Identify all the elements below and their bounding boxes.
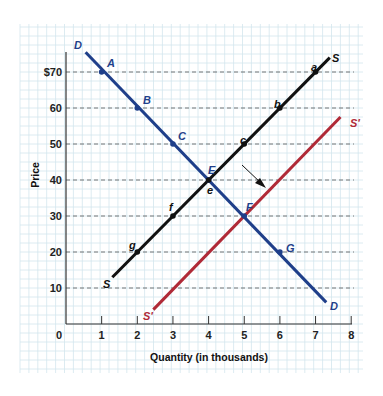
y-tick-label: 60 xyxy=(50,102,62,114)
x-tick-label: 7 xyxy=(312,329,318,341)
point-F xyxy=(241,213,247,219)
point-C xyxy=(170,141,176,147)
point-g-label: g xyxy=(128,239,136,251)
y-tick-label: 10 xyxy=(50,282,62,294)
x-tick-label: 6 xyxy=(277,329,283,341)
y-tick-label: 40 xyxy=(50,174,62,186)
point-F-label: F xyxy=(246,201,253,213)
y-axis-title: Price xyxy=(29,162,41,188)
y-tick-label: 30 xyxy=(50,210,62,222)
point-B xyxy=(135,105,141,111)
supply-label-top: S xyxy=(332,52,340,64)
new-supply-label-bottom: S' xyxy=(143,310,153,322)
supply-demand-chart: 12345678 102030405060$70 0 Price Quantit… xyxy=(0,0,383,396)
point-G-label: G xyxy=(286,242,295,254)
y-tick-label: 20 xyxy=(50,246,62,258)
demand-label-bottom: D xyxy=(330,300,338,312)
origin-label: 0 xyxy=(56,329,62,341)
point-G xyxy=(277,249,283,255)
point-A-label: A xyxy=(106,57,115,69)
point-B-label: B xyxy=(143,94,151,106)
demand-label-top: D xyxy=(74,39,82,51)
point-e xyxy=(206,177,212,183)
y-tick-label: 50 xyxy=(50,138,62,150)
point-e-label: e xyxy=(207,184,213,196)
new-supply-label-top: S' xyxy=(350,117,360,129)
x-tick-label: 5 xyxy=(241,329,247,341)
point-E-label: E xyxy=(208,164,216,176)
y-tick-label: $70 xyxy=(44,66,62,78)
point-f xyxy=(170,213,176,219)
x-tick-label: 3 xyxy=(170,329,176,341)
x-tick-label: 8 xyxy=(348,329,354,341)
point-a-label: a xyxy=(311,61,317,73)
point-b-label: b xyxy=(274,98,281,110)
point-c-label: c xyxy=(240,134,246,146)
x-tick-label: 1 xyxy=(99,329,105,341)
point-C-label: C xyxy=(178,130,187,142)
x-tick-label: 4 xyxy=(206,329,213,341)
supply-label-bottom: S xyxy=(103,278,111,290)
x-tick-label: 2 xyxy=(134,329,140,341)
point-A xyxy=(99,69,105,75)
x-axis-title: Quantity (in thousands) xyxy=(150,351,268,363)
